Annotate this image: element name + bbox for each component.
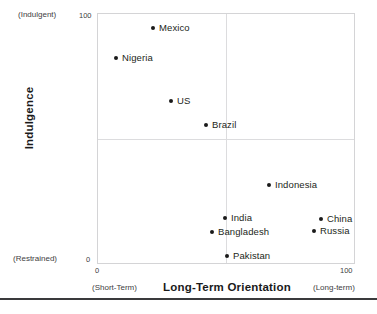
point-label: India [231,213,252,223]
horizontal-midline-gridline [98,139,354,140]
plot-area: Mexico Nigeria US Brazil Indonesia India… [97,13,355,264]
point-marker-dot [267,183,271,187]
point-label: US [177,96,190,106]
x-axis-title: Long-Term Orientation [120,281,334,293]
scatter-chart: Mexico Nigeria US Brazil Indonesia India… [0,0,377,314]
y-axis-title: Indulgence [23,58,35,178]
x-axis-tick-left: 0 [95,266,99,275]
point-marker-dot [151,26,155,30]
point-label: Pakistan [233,251,270,261]
point-label: Indonesia [275,180,317,190]
point-marker-dot [225,254,229,258]
point-label: Mexico [159,23,190,33]
point-marker-dot [210,230,214,234]
point-marker-dot [114,56,118,60]
point-marker-dot [204,123,208,127]
point-marker-dot [312,229,316,233]
y-axis-top-note: (Indulgent) [18,10,56,19]
point-label: Brazil [212,120,236,130]
point-label: Nigeria [122,53,153,63]
point-label: China [327,214,352,224]
bottom-divider-rule [0,298,377,300]
y-axis-tick-bottom: 0 [86,255,90,264]
point-label: Russia [320,226,350,236]
point-label: Bangladesh [218,227,269,237]
point-marker-dot [223,216,227,220]
point-marker-dot [169,99,173,103]
y-axis-tick-top: 100 [79,11,92,20]
x-axis-tick-right: 100 [340,266,353,275]
point-marker-dot [319,217,323,221]
y-axis-bottom-note: (Restrained) [13,254,57,263]
